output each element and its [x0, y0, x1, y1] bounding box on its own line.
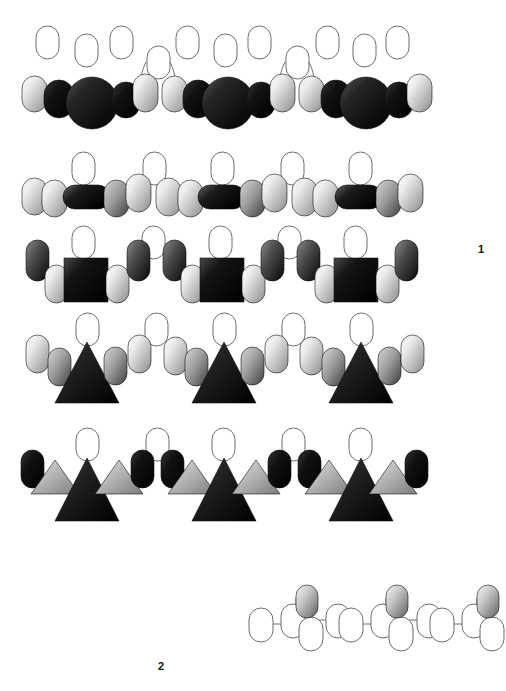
figure-svg [0, 0, 506, 691]
row-1-outline-capsules [36, 26, 409, 79]
row-4-triangle-capsule-chain [26, 313, 424, 403]
row-6-outlined-capsule-chain [249, 585, 504, 651]
row-1-circle-capsule-chain [22, 26, 432, 129]
row-4-outline-capsules [76, 313, 373, 346]
row-3-square-capsule-chain [26, 226, 418, 303]
row-6-outline-capsules-upper [249, 604, 486, 642]
figure-canvas: 1 2 [0, 0, 506, 691]
row-1-chain-units [22, 74, 432, 129]
row-5-triangle-trio-chain [21, 428, 428, 521]
row-2-wide-bar-capsule-chain [22, 152, 423, 217]
row-5-chain-units [21, 450, 428, 521]
row-3-outline-capsules [72, 226, 367, 259]
figure-label-2: 2 [158, 660, 164, 672]
figure-label-1: 1 [478, 243, 484, 255]
row-5-outline-capsules [76, 428, 372, 461]
